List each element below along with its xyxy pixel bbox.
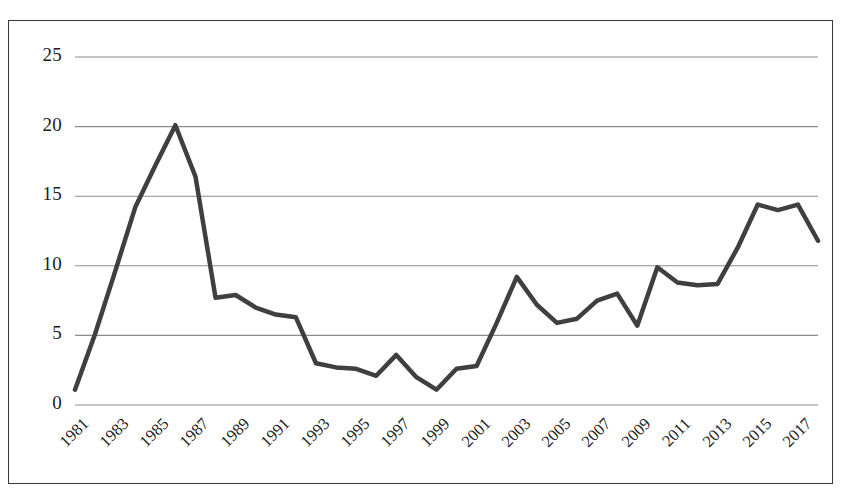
y-tick-label-10: 10	[18, 253, 62, 275]
y-tick-label-0: 0	[18, 392, 62, 414]
y-tick-label-20: 20	[18, 114, 62, 136]
y-tick-label-25: 25	[18, 44, 62, 66]
y-tick-label-5: 5	[18, 322, 62, 344]
chart-page: 0510152025 19811983198519871989199119931…	[0, 0, 847, 503]
chart-outer-border	[8, 20, 833, 484]
y-tick-label-15: 15	[18, 183, 62, 205]
